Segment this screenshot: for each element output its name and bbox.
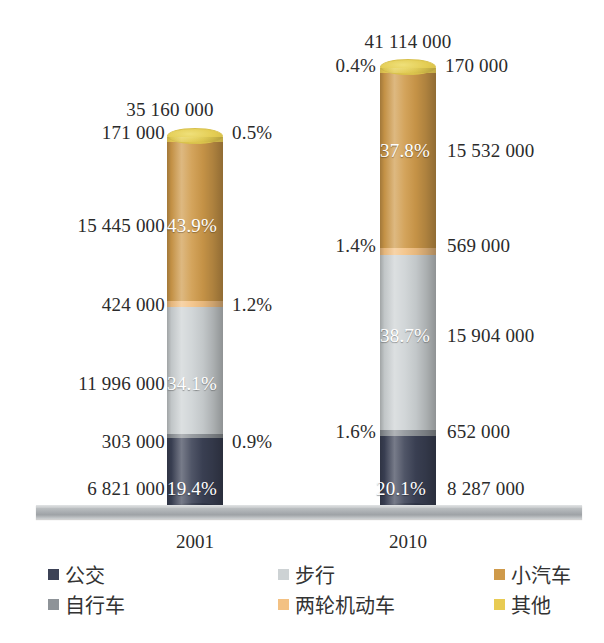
segment-2010-other[interactable] [380, 68, 436, 73]
legend-label: 步行 [295, 560, 335, 589]
segment-2001-bike[interactable] [167, 434, 223, 438]
cylinder-shading [167, 301, 223, 307]
legend-swatch-icon [278, 569, 289, 580]
total-label-2001: 35 160 000 [85, 99, 255, 121]
percent-label-2010-bike: 1.6% [288, 421, 376, 443]
percent-label-2001-walk: 34.1% [167, 373, 217, 395]
legend-label: 其他 [511, 590, 551, 619]
percent-label-2010-car: 37.8% [380, 140, 430, 162]
legend-item-bicycle[interactable]: 自行车 [48, 590, 125, 619]
legend-swatch-icon [494, 599, 505, 610]
value-label-2010-bike: 652 000 [447, 421, 510, 443]
value-label-2001-car: 15 445 000 [20, 215, 165, 237]
legend-swatch-icon [494, 569, 505, 580]
segment-2001-walk[interactable] [167, 307, 223, 434]
value-label-2001-motorcycle: 424 000 [60, 294, 165, 316]
percent-label-2001-bus: 19.4% [167, 478, 217, 500]
legend-swatch-icon [278, 599, 289, 610]
segment-2010-bike[interactable] [380, 430, 436, 436]
x-axis-label-2001: 2001 [155, 531, 235, 553]
percent-label-2001-bike: 0.9% [232, 431, 272, 453]
segment-2010-motorcycle[interactable] [380, 248, 436, 255]
segment-2001-other[interactable] [167, 137, 223, 142]
percent-label-2001-car: 43.9% [167, 215, 217, 237]
cylinder-shading [167, 307, 223, 434]
total-label-2010: 41 114 000 [323, 31, 493, 53]
cylinder-shading [380, 248, 436, 255]
legend-item-bus[interactable]: 公交 [48, 560, 105, 589]
percent-label-2010-other: 0.4% [288, 55, 376, 77]
percent-label-2001-motorcycle: 1.2% [232, 294, 272, 316]
legend-label: 两轮机动车 [295, 590, 395, 619]
cylinder-shading [380, 430, 436, 436]
value-label-2010-bus: 8 287 000 [447, 478, 525, 500]
value-label-2001-bus: 6 821 000 [25, 478, 165, 500]
percent-label-2001-other: 0.5% [232, 122, 272, 144]
value-label-2001-walk: 11 996 000 [20, 373, 165, 395]
value-label-2001-other: 171 000 [60, 122, 165, 144]
baseline-ground [36, 505, 582, 519]
legend-swatch-icon [48, 569, 59, 580]
chart-canvas: 35 160 000 171 000 0.5% 15 445 000 43.9%… [0, 0, 604, 643]
legend-item-walk[interactable]: 步行 [278, 560, 335, 589]
legend-item-car[interactable]: 小汽车 [494, 560, 571, 589]
value-label-2010-other: 170 000 [445, 55, 508, 77]
value-label-2001-bike: 303 000 [60, 431, 165, 453]
bar-2001[interactable] [167, 137, 223, 510]
percent-label-2010-motorcycle: 1.4% [288, 235, 376, 257]
value-label-2010-motorcycle: 569 000 [447, 235, 510, 257]
cylinder-shading [167, 434, 223, 438]
legend-item-motorcycle[interactable]: 两轮机动车 [278, 590, 395, 619]
legend-item-other[interactable]: 其他 [494, 590, 551, 619]
legend: 公交 步行 小汽车 自行车 两轮机动车 其他 [0, 560, 604, 620]
value-label-2010-car: 15 532 000 [447, 140, 535, 162]
percent-label-2010-walk: 38.7% [380, 325, 430, 347]
legend-label: 小汽车 [511, 560, 571, 589]
segment-2001-motorcycle[interactable] [167, 301, 223, 307]
legend-label: 公交 [65, 560, 105, 589]
legend-swatch-icon [48, 599, 59, 610]
x-axis-label-2010: 2010 [368, 531, 448, 553]
value-label-2010-walk: 15 904 000 [447, 325, 535, 347]
percent-label-2010-bus: 20.1% [376, 478, 426, 500]
cylinder-top-cap-2010 [380, 59, 436, 75]
cylinder-top-cap-2001 [167, 128, 223, 144]
bar-2010[interactable] [380, 68, 436, 510]
legend-label: 自行车 [65, 590, 125, 619]
